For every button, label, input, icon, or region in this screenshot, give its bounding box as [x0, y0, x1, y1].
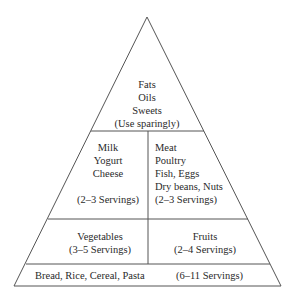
protein-line: Dry beans, Nuts	[155, 180, 223, 193]
pyramid-outline	[0, 0, 295, 298]
vegetables-servings: (3–5 Servings)	[55, 243, 145, 256]
protein-line: Meat	[155, 141, 223, 154]
protein-label: Meat Poultry Fish, Eggs Dry beans, Nuts …	[155, 141, 223, 206]
dairy-line: Yogurt	[70, 154, 146, 167]
fruits-label: Fruits (2–4 Servings)	[160, 230, 250, 256]
grains-servings: (6–11 Servings)	[176, 269, 243, 282]
dairy-servings: (2–3 Servings)	[70, 193, 146, 206]
dairy-line: Cheese	[70, 167, 146, 180]
protein-line: Fish, Eggs	[155, 167, 223, 180]
protein-line: Poultry	[155, 154, 223, 167]
dairy-label: Milk Yogurt Cheese (2–3 Servings)	[70, 141, 146, 206]
top-line: (Use sparingly)	[97, 117, 197, 130]
fruits-title: Fruits	[160, 230, 250, 243]
grains-label: Bread, Rice, Cereal, Pasta	[35, 269, 145, 282]
fats-oils-sweets-label: Fats Oils Sweets (Use sparingly)	[97, 78, 197, 130]
top-line: Sweets	[97, 104, 197, 117]
top-line: Fats	[97, 78, 197, 91]
protein-servings: (2–3 Servings)	[155, 193, 223, 206]
vegetables-label: Vegetables (3–5 Servings)	[55, 230, 145, 256]
dairy-line: Milk	[70, 141, 146, 154]
fruits-servings: (2–4 Servings)	[160, 243, 250, 256]
top-line: Oils	[97, 91, 197, 104]
vegetables-title: Vegetables	[55, 230, 145, 243]
